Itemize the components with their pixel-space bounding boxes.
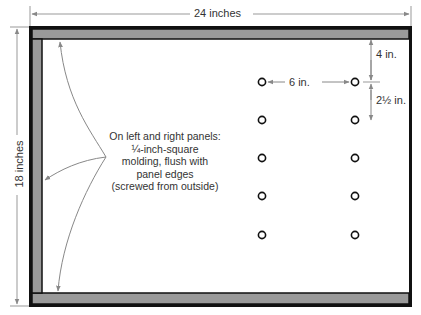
hole-icon (351, 231, 358, 238)
annotation-line: panel edges (98, 168, 232, 181)
left-molding (32, 39, 42, 293)
top-molding (32, 29, 409, 39)
annotation-line: molding, flush with (98, 155, 232, 168)
hole-icon (351, 78, 358, 85)
horizontal-spacing-label: 6 in. (289, 77, 310, 88)
annotation-line: On left and right panels: (98, 130, 232, 143)
annotation-line: (screwed from outside) (98, 180, 232, 193)
hole-icon (258, 78, 265, 85)
vertical-spacing-label: 2½ in. (376, 95, 406, 106)
top-offset-label: 4 in. (376, 49, 397, 60)
hole-icon (351, 192, 358, 199)
hole-icon (351, 116, 358, 123)
hole-icon (351, 154, 358, 161)
width-label: 24 inches (194, 8, 241, 19)
annotation-line: ¼-inch-square (98, 143, 232, 156)
hole-icon (258, 231, 265, 238)
hole-icon (258, 116, 265, 123)
hole-icon (258, 154, 265, 161)
molding-annotation: On left and right panels: ¼-inch-square … (98, 130, 232, 193)
height-label: 18 inches (13, 137, 25, 190)
hole-icon (258, 192, 265, 199)
bottom-molding (32, 293, 409, 304)
